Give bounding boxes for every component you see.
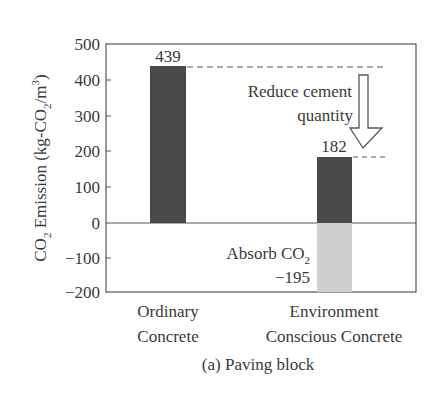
y-axis-title: CO2 Emission (kg-CO2/m3) (29, 74, 53, 261)
ytick-500: 500 (75, 35, 101, 54)
reduce-arrow-icon (350, 75, 382, 148)
absorb-label: Absorb CO2 (227, 244, 310, 266)
ytick-100: 100 (75, 178, 101, 197)
ytick-neg200: −200 (65, 283, 100, 302)
reduce-label-line1: Reduce cement (248, 82, 353, 101)
reduce-label-line2: quantity (297, 106, 353, 125)
y-axis-labels: 500 400 300 200 100 0 −100 −200 (65, 35, 100, 302)
ytick-200: 200 (75, 142, 101, 161)
bar1-value-label: 439 (155, 47, 181, 66)
category-1-line2: Concrete (137, 327, 198, 346)
ytick-300: 300 (75, 107, 101, 126)
category-1-line1: Ordinary (137, 302, 199, 321)
bar-eco-concrete-emission (317, 157, 352, 223)
ytick-neg100: −100 (65, 249, 100, 268)
category-2-line1: Environment (290, 302, 379, 321)
bar2-value-label: 182 (321, 137, 347, 156)
bar-chart: 500 400 300 200 100 0 −100 −200 CO2 Emis… (0, 0, 442, 402)
absorb-value-label: −195 (275, 268, 310, 287)
category-2-line2: Conscious Concrete (266, 327, 402, 346)
chart-caption: (a) Paving block (202, 355, 315, 374)
ytick-400: 400 (75, 71, 101, 90)
bar-ordinary-concrete (150, 66, 186, 223)
bar-eco-concrete-absorption (317, 223, 352, 292)
ytick-0: 0 (92, 214, 101, 233)
y-axis-ticks (106, 80, 111, 258)
